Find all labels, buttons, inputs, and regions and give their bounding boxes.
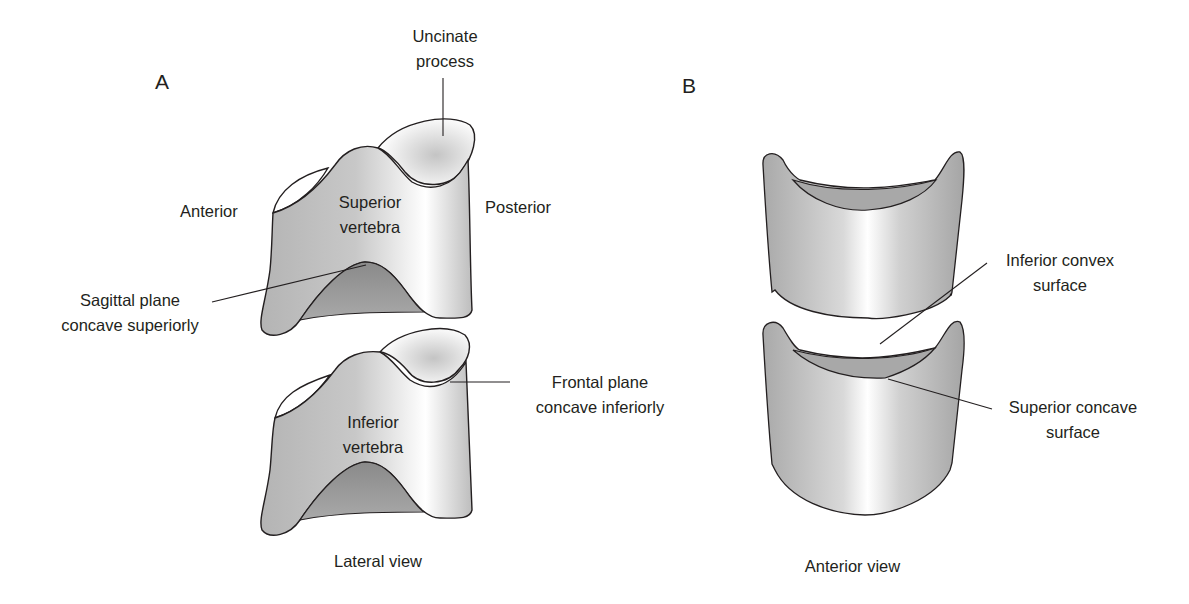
label-superior-concave-surface: Superior concave surface	[993, 395, 1153, 445]
caption-lateral-view: Lateral view	[318, 549, 438, 574]
label-frontal-plane: Frontal plane concave inferiorly	[515, 370, 685, 420]
upper-vertebra-anterior-shape	[763, 152, 964, 319]
label-posterior: Posterior	[485, 195, 551, 220]
label-line: surface	[993, 420, 1153, 445]
label-line: Inferior	[328, 410, 418, 435]
label-line: surface	[985, 273, 1135, 298]
label-inferior-convex-surface: Inferior convex surface	[985, 248, 1135, 298]
panel-a-letter: A	[155, 70, 169, 94]
lower-vertebra-anterior-shape	[763, 321, 964, 515]
label-line: vertebra	[328, 435, 418, 460]
label-uncinate-process: Uncinate process	[400, 24, 490, 74]
label-line: Frontal plane	[515, 370, 685, 395]
label-sagittal-plane: Sagittal plane concave superiorly	[40, 288, 220, 338]
panel-b-letter: B	[682, 74, 696, 98]
label-line: concave superiorly	[40, 313, 220, 338]
caption-anterior-view: Anterior view	[790, 554, 915, 579]
label-anterior: Anterior	[180, 199, 238, 224]
label-line: vertebra	[325, 215, 415, 240]
label-line: Superior concave	[993, 395, 1153, 420]
label-line: Sagittal plane	[40, 288, 220, 313]
label-line: Superior	[325, 190, 415, 215]
label-inferior-vertebra: Inferior vertebra	[328, 410, 418, 460]
label-superior-vertebra: Superior vertebra	[325, 190, 415, 240]
label-line: Uncinate	[400, 24, 490, 49]
label-line: Inferior convex	[985, 248, 1135, 273]
label-line: concave inferiorly	[515, 395, 685, 420]
label-line: process	[400, 49, 490, 74]
